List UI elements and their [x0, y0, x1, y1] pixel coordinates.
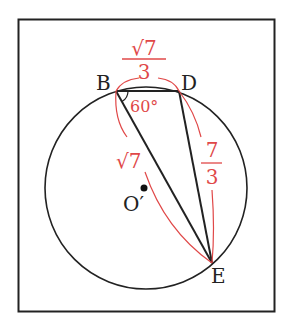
brace-be-bottom — [145, 172, 212, 263]
bd-numerator: √7 — [131, 36, 156, 60]
label-center: O′ — [123, 192, 144, 216]
label-b: B — [96, 71, 111, 95]
angle-label: 60° — [130, 97, 158, 116]
label-d: D — [181, 71, 197, 95]
bd-denominator: 3 — [138, 60, 151, 84]
geometry-diagram: B D E O′ 60° √7 3 7 3 √7 — [0, 0, 282, 323]
angle-arc-b — [122, 91, 128, 102]
segment-be — [116, 91, 212, 263]
label-e: E — [211, 264, 226, 288]
de-numerator: 7 — [206, 138, 219, 162]
center-point — [141, 185, 148, 192]
be-label: √7 — [116, 149, 141, 173]
de-denominator: 3 — [206, 165, 219, 189]
brace-de-bottom — [212, 190, 214, 263]
